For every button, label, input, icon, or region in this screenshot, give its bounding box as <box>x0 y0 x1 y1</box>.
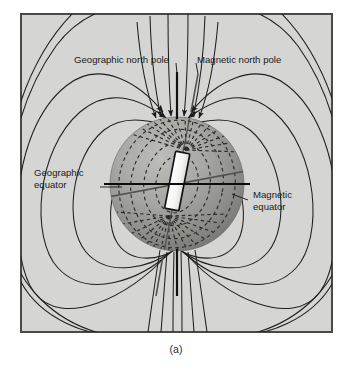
label-magnetic-equator-line2: equator <box>253 201 286 212</box>
label-geographic-north-pole: Geographic north pole <box>74 54 169 65</box>
label-magnetic-north-pole: Magnetic north pole <box>197 54 281 65</box>
label-geographic-equator-line1: Geographic <box>34 167 84 178</box>
earth-magnetic-field-diagram: Geographic north pole Magnetic north pol… <box>0 0 351 370</box>
figure-caption: (a) <box>170 343 183 355</box>
figure-container: Geographic north pole Magnetic north pol… <box>0 0 351 370</box>
label-magnetic-equator-line1: Magnetic <box>253 189 292 200</box>
label-geographic-equator-line2: equator <box>34 179 67 190</box>
